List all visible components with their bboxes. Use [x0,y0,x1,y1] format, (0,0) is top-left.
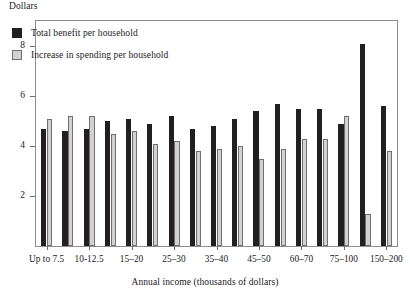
x-axis-tick-label: 35–40 [205,255,229,264]
legend-label-total-benefit: Total benefit per household [31,28,138,38]
bar [68,116,73,246]
bar [281,149,286,247]
bar [126,119,131,247]
x-axis-tick [344,246,345,250]
bar [275,104,280,247]
bar [89,116,94,246]
y-axis-tick [30,146,35,147]
bar [147,124,152,247]
bar [47,119,52,247]
bar [344,116,349,246]
bar [62,131,67,246]
bar [296,109,301,247]
legend-label-increase-spending: Increase in spending per household [31,50,168,60]
chart-legend: Total benefit per household Increase in … [12,22,168,66]
x-axis-tick [132,246,133,250]
bar [253,111,258,246]
x-axis-tick-label: 10-12.5 [75,255,104,264]
y-axis-tick [30,196,35,197]
y-axis-tick-label: 4 [0,141,25,151]
y-axis-tick [30,96,35,97]
x-axis-tick [386,246,387,250]
bar [169,116,174,246]
x-axis-tick [47,246,48,250]
bar [174,141,179,246]
bar [360,44,365,247]
bar [381,106,386,246]
bar [323,139,328,247]
x-axis-tick-label: Up to 7.5 [29,255,64,264]
bar [238,146,243,246]
y-axis-tick-label: 2 [0,191,25,201]
bar [232,119,237,247]
legend-item: Total benefit per household [12,22,168,44]
x-axis-tick-label: 150–200 [370,255,403,264]
x-axis-tick-label: 15–20 [120,255,144,264]
y-axis-title: Dollars [9,1,38,11]
bar [196,151,201,246]
legend-swatch-total-benefit [12,28,22,38]
bar [84,129,89,247]
bar [365,214,370,247]
bar-chart: Dollars 2468 Up to 7.510-12.515–2025–303… [0,0,410,294]
bar [190,129,195,247]
x-axis-tick-label: 25–30 [162,255,186,264]
bar [387,151,392,246]
bar [111,134,116,247]
legend-item: Increase in spending per household [12,44,168,66]
bar [338,124,343,247]
bar [41,129,46,247]
bar [302,139,307,247]
x-axis-tick [217,246,218,250]
bar [317,109,322,247]
y-axis-tick-label: 6 [0,91,25,101]
bar [132,131,137,246]
x-axis-title: Annual income (thousands of dollars) [0,277,410,287]
x-axis-tick [174,246,175,250]
bar [259,159,264,247]
bar [105,121,110,246]
x-axis-tick [89,246,90,250]
x-axis-tick-label: 60–70 [290,255,314,264]
x-axis-tick [301,246,302,250]
x-axis-tick-label: 45–50 [247,255,271,264]
bar [153,144,158,247]
bar [217,149,222,247]
legend-swatch-increase-spending [12,50,22,60]
bar [211,126,216,246]
x-axis-tick [259,246,260,250]
x-axis-tick-label: 75–100 [330,255,358,264]
